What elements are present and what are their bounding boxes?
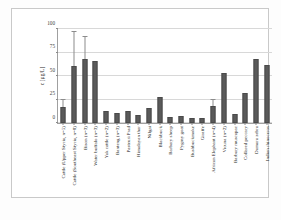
x-tick-label: Damara zebra [253,126,258,154]
x-tick-mark [181,123,182,125]
bar [232,114,237,123]
x-tick-mark [213,123,214,125]
y-tick-label: 75 [50,45,55,50]
bar [211,106,216,123]
bar [72,66,77,123]
bar-group: Nilgai [144,29,155,123]
x-tick-label: Water buffalo (n=3) [93,126,98,166]
x-tick-label: Barbary sheep [168,126,173,155]
x-tick-mark [255,123,256,125]
bar [179,116,184,123]
figure-frame: c [µg/L] 0255075100 Cattle (Upper Styria… [11,8,269,198]
bar-group: Pygmy goat [176,29,187,123]
bar-group: Bison (n=3) [79,29,90,123]
bar-group: Cattle (Upper Styria, n=5) [58,29,69,123]
bar-series: Cattle (Upper Styria, n=5)Cattle (Southe… [58,29,272,123]
y-tick-label: 50 [50,68,55,73]
bar-group: Vicuna (n=2) [219,29,230,123]
bar [93,61,98,123]
x-tick-label: Blackbuck [157,126,162,147]
x-tick-label: Pasteuri Prad [125,126,130,153]
x-tick-label: Collared peccary [243,126,248,160]
x-tick-mark [138,123,139,125]
x-tick-label: Bison (n=3) [82,126,87,150]
bar-group: Damara zebra [251,29,262,123]
bar [157,97,162,123]
bar [264,65,269,123]
x-tick-label: Bushbuckmoke [189,126,194,157]
x-tick-mark [84,123,85,125]
error-bar [84,37,85,59]
error-bar-cap [82,36,87,37]
x-tick-label: Cattle (Southeast Styria, n=8) [72,126,77,185]
bar [61,107,66,123]
x-tick-mark [266,123,267,125]
x-tick-label: Pygmy goat [179,126,184,150]
bar [146,108,151,123]
y-tick-label: 25 [50,92,55,97]
bar [253,59,258,123]
x-tick-label: Banteng (n=3) [114,126,119,155]
x-tick-label: Barbary muscapac [232,126,237,163]
bar-group: Collared peccary [240,29,251,123]
x-tick-label: Himalayan thar [136,126,141,157]
x-tick-mark [191,123,192,125]
x-tick-mark [116,123,117,125]
x-tick-label: Vicuna (n=2) [221,126,226,153]
x-tick-label: African Elephant (n=4) [211,126,216,173]
bar-group: Cattle (Southeast Styria, n=8) [69,29,80,123]
bar-group: Water buffalo (n=3) [90,29,101,123]
figure-container: c [µg/L] 0255075100 Cattle (Upper Styria… [0,0,281,220]
bar-group: Giraffe [197,29,208,123]
bar [243,93,248,123]
error-bar [63,100,64,107]
bar-group: Barbary sheep [165,29,176,123]
x-tick-mark [74,123,75,125]
error-bar [74,32,75,66]
error-bar [213,100,214,106]
x-tick-label: Yak cattle (n=2) [104,126,109,158]
bar-group: Indian rhinoceros [261,29,272,123]
bar-group: African Elephant (n=4) [208,29,219,123]
y-axis-title: c [µg/L] [39,67,45,86]
bar-group: Barbary muscapac [229,29,240,123]
error-bar-cap [61,99,66,100]
error-bar-cap [72,31,77,32]
bar-group: Banteng (n=3) [112,29,123,123]
bar-group: Himalayan thar [133,29,144,123]
x-tick-label: Indian rhinoceros [264,126,269,161]
bar [82,59,87,123]
bar [114,113,119,123]
bar-group: Pasteuri Prad [122,29,133,123]
x-tick-mark [170,123,171,125]
bar [125,111,130,123]
y-tick-label: 100 [47,21,55,26]
x-tick-mark [234,123,235,125]
bar-group: Yak cattle (n=2) [101,29,112,123]
error-bar-cap [211,99,216,100]
x-tick-label: Giraffe [200,126,205,140]
x-tick-label: Cattle (Upper Styria, n=5) [61,126,66,179]
x-tick-mark [202,123,203,125]
plot-area: 0255075100 Cattle (Upper Styria, n=5)Cat… [57,29,272,124]
bar [104,111,109,123]
x-tick-mark [106,123,107,125]
bar-group: Blackbuck [154,29,165,123]
x-tick-mark [95,123,96,125]
x-tick-label: Nilgai [146,126,151,139]
x-tick-mark [159,123,160,125]
bar [136,115,141,123]
y-tick-label: 0 [52,115,55,120]
x-tick-mark [245,123,246,125]
bar [221,73,226,123]
bar-group: Bushbuckmoke [186,29,197,123]
